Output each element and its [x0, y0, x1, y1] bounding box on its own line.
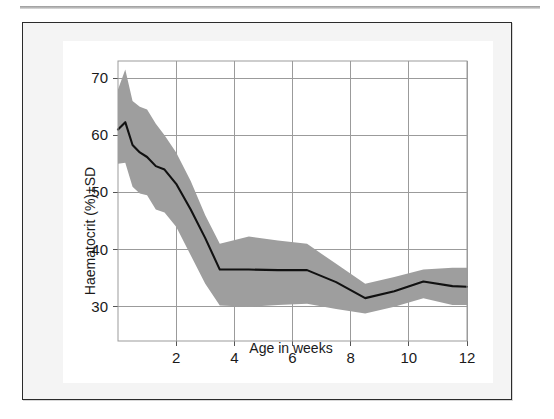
- y-tick-label: 70: [91, 69, 108, 86]
- haematocrit-line-chart: Haematocrit (%)±SD Age in weeks 30405060…: [23, 23, 513, 401]
- page-top-rule: [20, 6, 540, 9]
- x-tick-label: 8: [346, 349, 354, 366]
- x-tick-label: 12: [459, 349, 476, 366]
- y-tick-label: 30: [91, 298, 108, 315]
- x-tick-label: 6: [288, 349, 296, 366]
- figure-container: Haematocrit (%)±SD Age in weeks 30405060…: [22, 22, 512, 400]
- x-tick-label: 4: [230, 349, 238, 366]
- x-tick-label: 2: [172, 349, 180, 366]
- x-tick-label: 10: [400, 349, 417, 366]
- y-tick-label: 60: [91, 126, 108, 143]
- plot-wrapper: Haematocrit (%)±SD Age in weeks 30405060…: [23, 23, 513, 401]
- y-tick-label: 50: [91, 183, 108, 200]
- y-tick-label: 40: [91, 241, 108, 258]
